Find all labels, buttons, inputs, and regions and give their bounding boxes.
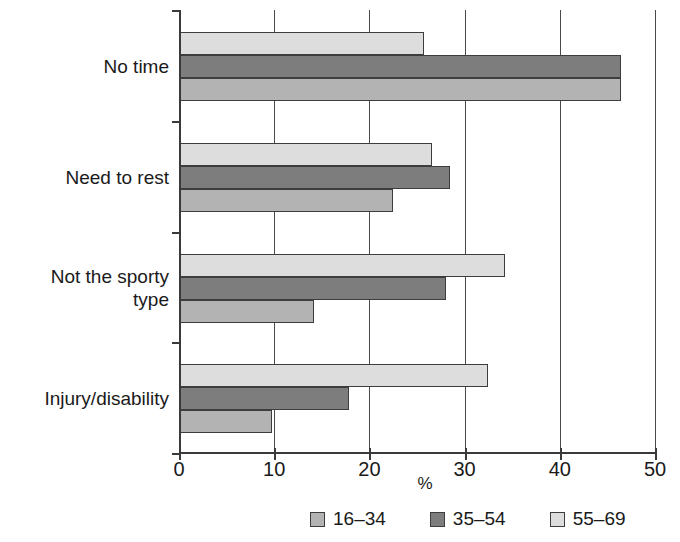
category-label-line: Not the sporty (7, 265, 169, 288)
bar (179, 254, 505, 277)
x-tick-label: 0 (173, 458, 184, 481)
x-axis-title: % (417, 474, 432, 494)
bar (179, 277, 446, 300)
legend-item: 35–54 (430, 508, 506, 530)
gridline-50 (655, 10, 656, 453)
legend-swatch-icon (550, 512, 565, 527)
x-axis (179, 452, 656, 454)
bar (179, 410, 272, 433)
plot-area (179, 10, 655, 453)
category-label: Not the sportytype (7, 265, 179, 311)
x-tick-label: 10 (263, 458, 285, 481)
bar (179, 32, 424, 55)
category-label: No time (7, 55, 179, 78)
legend-label: 55–69 (573, 508, 626, 530)
bar (179, 78, 621, 101)
legend-label: 35–54 (453, 508, 506, 530)
category-label-line: Injury/disability (7, 387, 169, 410)
bar (179, 364, 488, 387)
bar (179, 300, 314, 323)
category-label: Injury/disability (7, 387, 179, 410)
x-tick-label: 20 (358, 458, 380, 481)
legend-item: 55–69 (550, 508, 626, 530)
bar (179, 143, 432, 166)
x-tick-label: 40 (549, 458, 571, 481)
category-label-line: Need to rest (7, 166, 169, 189)
bar-chart: No timeNeed to restNot the sportytypeInj… (0, 0, 680, 542)
legend-label: 16–34 (333, 508, 386, 530)
bar (179, 166, 450, 189)
category-label-line: No time (7, 55, 169, 78)
category-labels: No timeNeed to restNot the sportytypeInj… (0, 0, 179, 460)
legend-swatch-icon (430, 512, 445, 527)
bar (179, 387, 349, 410)
x-tick-label: 30 (453, 458, 475, 481)
bar (179, 55, 621, 78)
x-tick-label: 50 (644, 458, 666, 481)
legend-swatch-icon (310, 512, 325, 527)
legend: 16–3435–5455–69 (310, 508, 626, 530)
category-label-line: type (7, 288, 169, 311)
category-label: Need to rest (7, 166, 179, 189)
y-axis (179, 10, 181, 453)
legend-item: 16–34 (310, 508, 386, 530)
bar (179, 189, 393, 212)
